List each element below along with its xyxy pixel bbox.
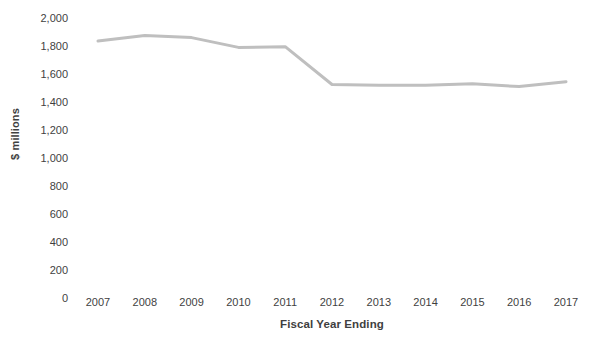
caption-remnant bbox=[18, 349, 418, 360]
x-tick-label: 2016 bbox=[493, 296, 545, 309]
x-tick-label: 2012 bbox=[306, 296, 358, 309]
x-tick-label: 2007 bbox=[72, 296, 124, 309]
x-tick-label: 2015 bbox=[446, 296, 498, 309]
x-tick-label: 2011 bbox=[259, 296, 311, 309]
y-tick-label: 200 bbox=[22, 265, 68, 276]
x-axis-tick-labels: 2007200820092010201120122013201420152016… bbox=[0, 296, 609, 316]
y-axis-title: $ millions bbox=[9, 89, 21, 179]
line-chart-figure: $ millions 02004006008001,0001,2001,4001… bbox=[0, 0, 609, 360]
y-tick-label: 600 bbox=[22, 209, 68, 220]
x-tick-label: 2009 bbox=[166, 296, 218, 309]
plot-svg bbox=[72, 18, 592, 298]
y-tick-label: 2,000 bbox=[22, 13, 68, 24]
y-tick-label: 1,200 bbox=[22, 125, 68, 136]
y-tick-label: 1,000 bbox=[22, 153, 68, 164]
x-tick-label: 2008 bbox=[119, 296, 171, 309]
data-series-line bbox=[98, 36, 566, 87]
y-tick-label: 800 bbox=[22, 181, 68, 192]
y-tick-label: 1,800 bbox=[22, 41, 68, 52]
y-tick-label: 400 bbox=[22, 237, 68, 248]
x-tick-label: 2017 bbox=[540, 296, 592, 309]
x-tick-label: 2014 bbox=[400, 296, 452, 309]
x-tick-label: 2013 bbox=[353, 296, 405, 309]
plot-area bbox=[72, 18, 592, 298]
x-tick-label: 2010 bbox=[212, 296, 264, 309]
x-axis-title: Fiscal Year Ending bbox=[72, 318, 592, 330]
y-tick-label: 1,400 bbox=[22, 97, 68, 108]
y-tick-label: 1,600 bbox=[22, 69, 68, 80]
